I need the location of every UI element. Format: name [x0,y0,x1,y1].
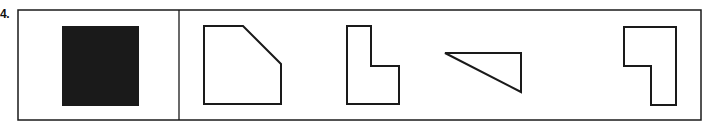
option-triangle-shape[interactable] [445,53,521,92]
option-pentagon-shape[interactable] [204,26,281,104]
shape-puzzle-figure [0,0,726,130]
reference-filled-square [62,26,139,106]
option-mirrored-l-shape[interactable] [624,27,676,105]
option-l-shape[interactable] [347,26,399,104]
